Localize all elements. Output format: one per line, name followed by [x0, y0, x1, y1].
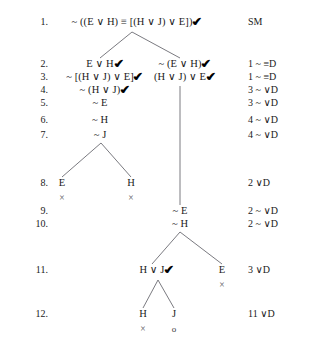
closed-branch-icon: ×	[219, 280, 224, 290]
checkmark-icon: ✔	[199, 57, 212, 71]
justification: 2 ∨D	[248, 178, 270, 188]
branch-line	[132, 32, 180, 58]
justification: 3 ∨D	[248, 265, 270, 275]
justification: 4 ~ ∨D	[248, 130, 278, 140]
line-number: 2.	[26, 59, 48, 69]
justification: SM	[248, 17, 262, 27]
formula-node: ~ E	[92, 98, 107, 109]
line-number: 6.	[26, 115, 48, 125]
closed-branch-icon: ×	[128, 193, 133, 203]
line-number: 12.	[26, 309, 48, 319]
formula-node: H ∨ J	[139, 265, 164, 276]
line-number: 1.	[26, 17, 48, 27]
formula-node: ~ H	[92, 115, 108, 126]
branch-line	[180, 232, 222, 264]
formula-node: J	[172, 309, 176, 320]
formula-node: ~ (E ∨ H)	[158, 59, 201, 70]
branch-line	[158, 280, 174, 308]
formula-node: (H ∨ J) ∨ E	[154, 72, 206, 83]
line-number: 5.	[26, 98, 48, 108]
checkmark-icon: ✔	[162, 263, 175, 277]
formula-node: H	[127, 178, 135, 189]
justification: 3 ~ ∨D	[248, 98, 278, 108]
justification: 4 ~ ∨D	[248, 115, 278, 125]
branch-line	[100, 32, 132, 58]
closed-branch-icon: ×	[59, 193, 64, 203]
justification: 1 ~ ≡D	[248, 72, 276, 82]
formula-node: E	[219, 265, 226, 276]
truth-tree-diagram: 1.SM~ ((E ∨ H) ≡ [(H ∨ J) ∨ E])✔2.1 ~ ≡D…	[0, 0, 311, 355]
branch-line	[101, 143, 131, 177]
closed-branch-icon: ×	[140, 324, 145, 334]
justification: 2 ~ ∨D	[248, 219, 278, 229]
formula-node: ~ J	[94, 130, 107, 141]
checkmark-icon: ✔	[190, 15, 203, 29]
justification: 11 ∨D	[248, 309, 275, 319]
checkmark-icon: ✔	[111, 57, 124, 71]
formula-node: ~ H	[172, 219, 188, 230]
justification: 2 ~ ∨D	[248, 206, 278, 216]
formula-node: ~ E	[172, 206, 187, 217]
branch-line	[143, 280, 158, 308]
branch-line	[62, 143, 101, 177]
formula-node: ~ ((E ∨ H) ≡ [(H ∨ J) ∨ E])	[71, 17, 192, 28]
line-number: 9.	[26, 206, 48, 216]
justification: 3 ~ ∨D	[248, 85, 278, 95]
checkmark-icon: ✔	[204, 70, 217, 84]
line-number: 11.	[26, 265, 48, 275]
line-number: 4.	[26, 85, 48, 95]
formula-node: ~ (H ∨ J)	[80, 85, 121, 96]
line-number: 8.	[26, 178, 48, 188]
formula-node: H	[139, 309, 147, 320]
line-number: 10.	[26, 219, 48, 229]
line-number: 3.	[26, 72, 48, 82]
checkmark-icon: ✔	[131, 70, 144, 84]
justification: 1 ~ ≡D	[248, 59, 276, 69]
formula-node: E	[59, 178, 66, 189]
branch-line	[152, 232, 180, 264]
formula-node: ~ [(H ∨ J) ∨ E]	[66, 72, 134, 83]
line-number: 7.	[26, 130, 48, 140]
formula-node: E ∨ H	[86, 59, 113, 70]
checkmark-icon: ✔	[118, 83, 131, 97]
open-branch-icon: o	[172, 324, 177, 334]
